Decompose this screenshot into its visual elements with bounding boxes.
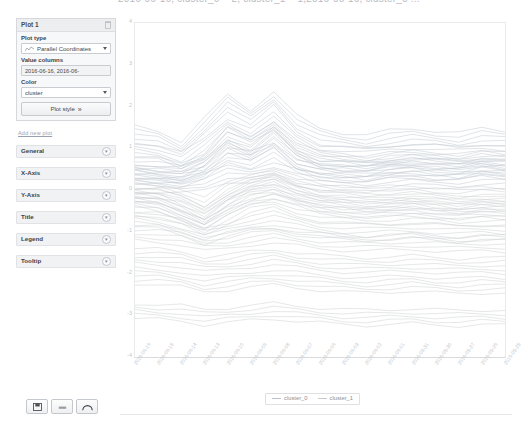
color-value: cluster [25,90,100,96]
line-chart-icon [25,46,34,52]
theme-button[interactable] [76,399,98,414]
y-axis-tick: 4 [120,19,132,25]
parallel-coordinates-lines [135,23,505,357]
plot-card-title: Plot 1 [21,22,105,29]
plot-style-button[interactable]: Plot style » [21,102,111,116]
plot-card: Plot 1 Plot type Parallel Coordinates Va… [16,18,116,121]
legend-item[interactable]: cluster_1 [318,396,354,402]
value-columns-field: Value columns 2016-06-16, 2016-06- [17,54,115,76]
clipped-header-label: 2016-06-16, cluster_0 = 2, cluster_1 = 1… [118,0,420,4]
collapse-toggle-icon[interactable]: ▾ [102,213,111,222]
clipped-header-text: 2016-06-16, cluster_0 = 2, cluster_1 = 1… [0,0,528,14]
accordion-label: Legend [21,236,102,242]
accordion-label: General [21,148,102,154]
plot-type-select[interactable]: Parallel Coordinates [21,43,111,54]
collapse-toggle-icon[interactable]: ▾ [102,191,111,200]
file-icon [58,403,67,411]
y-axis-tick: -2 [120,270,132,276]
chevron-down-icon [103,91,107,94]
color-select[interactable]: cluster [21,87,111,98]
accordion-section-general[interactable]: General ▾ [16,145,116,158]
add-new-plot-link[interactable]: Add new plot [18,130,118,136]
settings-accordion: General ▾ X-Axis ▾ Y-Axis ▾ Title ▾ Lege… [16,145,118,268]
y-axis-tick: 2 [120,103,132,109]
value-columns-input[interactable]: 2016-06-16, 2016-06- [21,65,111,76]
plot-style-label: Plot style [50,106,74,112]
accordion-section-y-axis[interactable]: Y-Axis ▾ [16,189,116,202]
color-label: Color [21,79,111,85]
y-axis-tick: -1 [120,228,132,234]
y-axis-tick: 0 [120,186,132,192]
plot-control-panel: Plot 1 Plot type Parallel Coordinates Va… [16,18,118,408]
plot-type-value: Parallel Coordinates [37,46,100,52]
accordion-section-title[interactable]: Title ▾ [16,211,116,224]
arc-icon [82,403,93,411]
plot-type-field: Plot type Parallel Coordinates [17,32,115,54]
double-chevron-right-icon: » [78,106,82,113]
bottom-toolbar [26,399,98,414]
accordion-section-legend[interactable]: Legend ▾ [16,233,116,246]
legend-label: cluster_0 [284,396,308,402]
collapse-toggle-icon[interactable]: ▾ [102,169,111,178]
plot-card-footer: Plot style » [17,98,115,120]
legend-swatch-cluster-0 [272,398,281,399]
chart-legend: cluster_0 cluster_1 [265,393,360,405]
export-button[interactable] [51,399,73,414]
legend-item[interactable]: cluster_0 [272,396,308,402]
footer-divider [120,414,512,415]
collapse-toggle-icon[interactable]: ▾ [102,147,111,156]
accordion-label: Title [21,214,102,220]
save-button[interactable] [26,399,48,414]
accordion-section-x-axis[interactable]: X-Axis ▾ [16,167,116,180]
chart-area: 43210-1-2-3-4 2016-06-162016-06-152016-0… [120,16,512,416]
y-axis-tick: 1 [120,144,132,150]
chevron-down-icon [103,47,107,50]
plot-frame [134,22,506,358]
accordion-label: Tooltip [21,258,102,264]
color-field: Color cluster [17,76,115,98]
value-columns-label: Value columns [21,57,111,63]
plot-type-label: Plot type [21,35,111,41]
accordion-section-tooltip[interactable]: Tooltip ▾ [16,255,116,268]
plot-card-header: Plot 1 [17,19,115,32]
trash-icon[interactable] [105,21,111,29]
y-axis-tick: 3 [120,61,132,67]
legend-swatch-cluster-1 [318,398,327,399]
accordion-label: Y-Axis [21,192,102,198]
y-axis-tick: -4 [120,353,132,359]
accordion-label: X-Axis [21,170,102,176]
floppy-disk-icon [33,403,42,411]
y-axis-tick: -3 [120,311,132,317]
legend-label: cluster_1 [330,396,354,402]
collapse-toggle-icon[interactable]: ▾ [102,257,111,266]
collapse-toggle-icon[interactable]: ▾ [102,235,111,244]
